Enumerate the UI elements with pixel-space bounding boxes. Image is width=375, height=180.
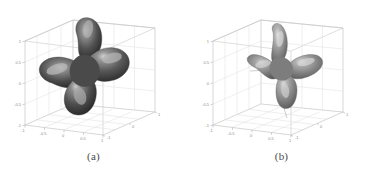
isosurface-b <box>247 23 322 108</box>
x-tick-a-1: -0.5 <box>40 131 48 136</box>
z-tick-b-1: -0.5 <box>202 102 210 107</box>
plot-a-canvas: 1 0.5 0 -0.5 -1 -1 -0.5 0 0.5 1 <box>0 0 187 150</box>
figure-container: 1 0.5 0 -0.5 -1 -1 -0.5 0 0.5 1 <box>0 0 375 180</box>
x-tick-b-3: 0.5 <box>268 136 274 141</box>
y-tick-a-1: 0 <box>132 124 135 129</box>
plot-b-canvas: 1 0.5 0 -0.5 -1 -1 -0.5 0 0.5 1 <box>188 0 375 150</box>
z-axis-b <box>211 41 214 126</box>
y-tick-b-0: -1 <box>295 135 299 140</box>
z-tick-labels-b: 1 0.5 0 -0.5 -1 <box>202 39 210 128</box>
z-tick-labels-a: 1 0.5 0 -0.5 -1 <box>14 39 22 128</box>
z-axis-a <box>23 41 26 126</box>
z-tick-b-2: 0 <box>207 81 210 86</box>
left-gridlines-b <box>213 25 261 120</box>
x-tick-b-0: -1 <box>209 128 213 133</box>
y-tick-b-1: 0 <box>320 124 323 129</box>
x-tick-a-0: -1 <box>21 128 25 133</box>
z-tick-a-2: 0 <box>19 81 22 86</box>
y-tick-b-2: 1 <box>346 112 349 117</box>
isosurface-a <box>39 18 129 115</box>
panel-a-caption: (a) <box>0 150 187 162</box>
x-tick-labels-b: -1 -0.5 0 0.5 1 <box>209 128 292 143</box>
x-tick-b-4: 1 <box>289 138 292 143</box>
x-tick-labels-a: -1 -0.5 0 0.5 1 <box>21 128 104 143</box>
z-tick-a-4: 1 <box>19 39 22 44</box>
panel-b-caption: (b) <box>188 150 375 162</box>
y-tick-a-0: -1 <box>107 135 111 140</box>
z-tick-a-1: -0.5 <box>14 102 22 107</box>
panel-a: 1 0.5 0 -0.5 -1 -1 -0.5 0 0.5 1 <box>0 0 187 180</box>
z-tick-a-3: 0.5 <box>15 60 21 65</box>
y-tick-a-2: 1 <box>158 112 161 117</box>
x-tick-b-1: -0.5 <box>228 131 236 136</box>
lobe-a-core <box>70 55 100 87</box>
x-tick-a-4: 1 <box>101 138 104 143</box>
x-tick-a-3: 0.5 <box>80 136 86 141</box>
z-tick-b-4: 1 <box>207 39 210 44</box>
z-tick-b-3: 0.5 <box>203 60 209 65</box>
x-tick-a-2: 0 <box>62 133 65 138</box>
panel-b: 1 0.5 0 -0.5 -1 -1 -0.5 0 0.5 1 <box>188 0 375 180</box>
x-tick-b-2: 0 <box>250 133 253 138</box>
